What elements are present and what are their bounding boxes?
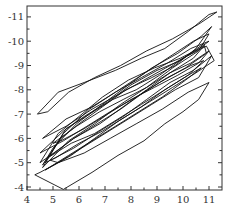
chart: 4567891011 -4-5-6-7-8-9-10-11 — [0, 0, 231, 213]
x-tick-label: 7 — [102, 194, 108, 205]
y-tick-label: -7 — [14, 109, 24, 120]
plot-background — [0, 0, 231, 213]
y-tick-label: -8 — [14, 84, 24, 95]
x-tick-label: 5 — [50, 194, 56, 205]
y-tick-label: -9 — [14, 60, 24, 71]
y-tick-label: -10 — [8, 36, 24, 47]
x-tick-label: 10 — [177, 194, 190, 205]
x-tick-label: 8 — [128, 194, 134, 205]
x-tick-label: 4 — [24, 194, 30, 205]
x-tick-label: 6 — [76, 194, 82, 205]
y-tick-label: -5 — [14, 157, 24, 168]
x-tick-label: 9 — [154, 194, 160, 205]
y-tick-label: -4 — [14, 182, 24, 193]
y-tick-label: -11 — [8, 11, 24, 22]
y-tick-label: -6 — [14, 133, 24, 144]
x-tick-label: 11 — [203, 194, 216, 205]
